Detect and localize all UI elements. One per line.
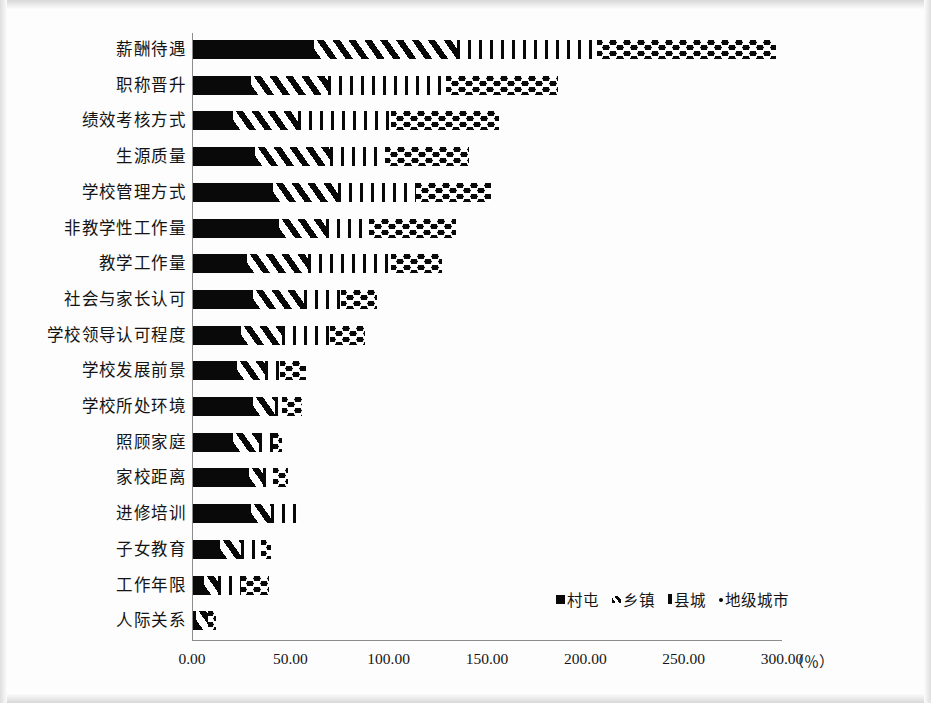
legend-swatch-solid-icon: [556, 595, 565, 604]
stacked-bar: [192, 254, 442, 273]
category-label: 照顾家庭: [0, 426, 186, 460]
legend-item: 乡镇: [612, 588, 655, 610]
chart-row: 职称晋升: [0, 69, 931, 103]
legend-item: 地级城市: [719, 588, 789, 610]
bar-segment-dots: [280, 361, 306, 380]
category-label: 社会与家长认可: [0, 283, 186, 317]
x-tick-label: 150.00: [442, 650, 532, 668]
bar-segment-dots: [369, 219, 456, 238]
stacked-bar: [192, 468, 288, 487]
bar-segment-vertical-lines: [298, 111, 390, 130]
bar-segment-vertical-lines: [241, 540, 261, 559]
chart-row: 学校发展前景: [0, 354, 931, 388]
chart-row: 非教学性工作量: [0, 212, 931, 246]
bar-segment-dots: [282, 397, 302, 416]
stacked-bar: [192, 40, 776, 59]
bar-segment-solid: [192, 540, 220, 559]
stacked-bar: [192, 576, 269, 595]
stacked-bar: [192, 540, 271, 559]
bar-segment-solid: [192, 147, 255, 166]
bar-segment-solid: [192, 183, 273, 202]
stacked-bar: [192, 147, 469, 166]
bar-segment-vertical-lines: [328, 76, 446, 95]
bar-segment-dots: [391, 254, 442, 273]
stacked-bar: [192, 433, 282, 452]
x-axis-line: [192, 640, 782, 641]
bar-segment-diagonal-hatch: [273, 183, 338, 202]
category-label: 非教学性工作量: [0, 212, 186, 246]
chart-row: 薪酬待遇: [0, 33, 931, 67]
chart-row: 学校领导认可程度: [0, 319, 931, 353]
stacked-bar: [192, 183, 491, 202]
legend-swatch-dots-icon: [719, 598, 723, 602]
bar-segment-vertical-lines: [263, 468, 273, 487]
bar-segment-diagonal-hatch: [251, 76, 328, 95]
chart-row: 学校所处环境: [0, 390, 931, 424]
bar-segment-diagonal-hatch: [204, 576, 218, 595]
legend-label: 乡镇: [623, 588, 655, 610]
bar-segment-diagonal-hatch: [251, 504, 271, 523]
bar-segment-diagonal-hatch: [196, 611, 208, 630]
x-tick-label: 250.00: [639, 650, 729, 668]
legend-label: 地级城市: [725, 588, 789, 610]
chart-legend: 村屯乡镇县城地级城市: [556, 588, 789, 610]
bar-segment-diagonal-hatch: [233, 111, 298, 130]
category-label: 家校距离: [0, 461, 186, 495]
bar-segment-solid: [192, 254, 247, 273]
category-label: 子女教育: [0, 533, 186, 567]
bar-segment-vertical-lines: [338, 183, 417, 202]
bar-segment-solid: [192, 326, 241, 345]
chart-row: 教学工作量: [0, 247, 931, 281]
category-label: 职称晋升: [0, 69, 186, 103]
bar-segment-diagonal-hatch: [237, 361, 265, 380]
chart-row: 社会与家长认可: [0, 283, 931, 317]
bar-segment-dots: [261, 540, 271, 559]
legend-item: 县城: [668, 588, 706, 610]
bar-segment-dots: [273, 468, 289, 487]
bar-segment-solid: [192, 76, 251, 95]
bar-segment-diagonal-hatch: [253, 397, 275, 416]
chart-row: 学校管理方式: [0, 176, 931, 210]
x-axis-unit-label: （％）: [789, 650, 834, 671]
x-tick-label: 50.00: [245, 650, 335, 668]
bar-segment-vertical-lines: [282, 326, 329, 345]
bar-segment-solid: [192, 397, 253, 416]
chart-row: 子女教育: [0, 533, 931, 567]
bar-segment-solid: [192, 40, 314, 59]
bar-segment-dots: [208, 611, 216, 630]
stacked-bar: [192, 326, 365, 345]
bar-segment-diagonal-hatch: [233, 433, 259, 452]
bar-segment-diagonal-hatch: [247, 254, 308, 273]
bar-segment-diagonal-hatch: [253, 290, 304, 309]
legend-label: 县城: [674, 588, 706, 610]
bar-segment-dots: [341, 290, 376, 309]
category-label: 学校领导认可程度: [0, 319, 186, 353]
category-label: 进修培训: [0, 497, 186, 531]
category-label: 工作年限: [0, 569, 186, 603]
legend-swatch-vertical-lines-icon: [668, 594, 672, 604]
chart-row: 绩效考核方式: [0, 104, 931, 138]
bar-segment-vertical-lines: [265, 361, 281, 380]
bar-segment-dots: [385, 147, 470, 166]
x-tick-label: 0.00: [147, 650, 237, 668]
x-tick-label: 200.00: [540, 650, 630, 668]
legend-item: 村屯: [556, 588, 599, 610]
bar-segment-dots: [241, 576, 269, 595]
bar-segment-solid: [192, 576, 204, 595]
bar-segment-solid: [192, 504, 251, 523]
legend-label: 村屯: [567, 588, 599, 610]
bar-segment-diagonal-hatch: [279, 219, 326, 238]
stacked-bar: [192, 611, 216, 630]
legend-swatch-diagonal-hatch-icon: [612, 596, 621, 603]
stacked-bar: [192, 290, 377, 309]
bar-segment-vertical-lines: [457, 40, 597, 59]
chart-row: 家校距离: [0, 461, 931, 495]
bar-segment-solid: [192, 468, 249, 487]
bar-segment-diagonal-hatch: [241, 326, 282, 345]
bar-segment-diagonal-hatch: [314, 40, 458, 59]
bar-segment-vertical-lines: [271, 504, 299, 523]
stacked-bar: [192, 397, 302, 416]
x-tick-label: 100.00: [344, 650, 434, 668]
bar-segment-vertical-lines: [326, 219, 369, 238]
bar-segment-vertical-lines: [308, 254, 391, 273]
